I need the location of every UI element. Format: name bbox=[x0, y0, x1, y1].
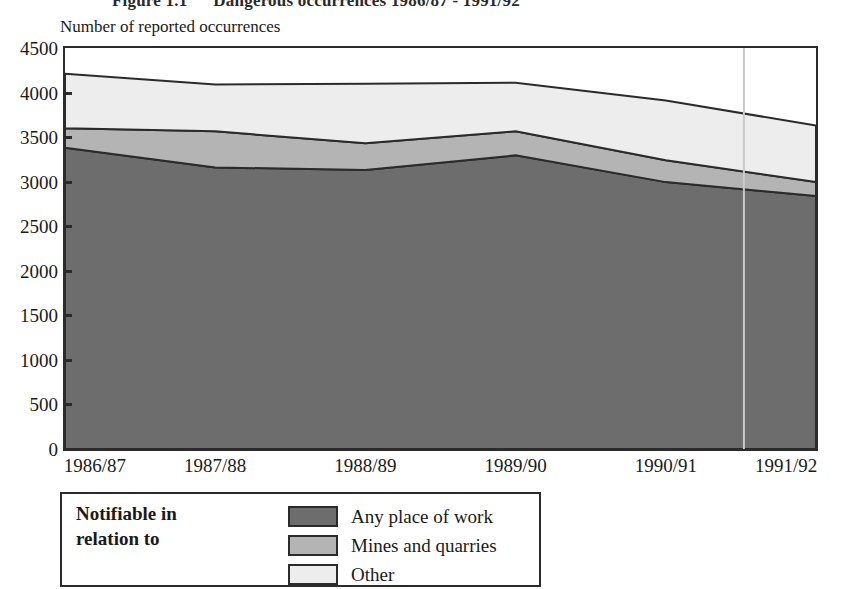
figure-number: Figure 1.1 bbox=[112, 0, 187, 10]
y-axis-caption: Number of reported occurrences bbox=[60, 17, 280, 37]
y-tick-mark bbox=[65, 314, 72, 317]
y-tick-mark bbox=[65, 225, 72, 228]
legend-title-line-2: relation to bbox=[76, 526, 276, 551]
y-tick-label: 2000 bbox=[2, 261, 58, 280]
plot-area bbox=[63, 46, 818, 451]
y-tick-mark bbox=[65, 181, 72, 184]
area-band bbox=[65, 148, 816, 449]
y-tick-mark bbox=[65, 270, 72, 273]
y-tick-mark bbox=[65, 359, 72, 362]
x-axis-tick-labels: 1986/871987/881988/891989/901990/911991/… bbox=[0, 455, 861, 481]
y-tick-label: 1500 bbox=[2, 306, 58, 325]
y-tick-mark bbox=[65, 136, 72, 139]
legend-swatch bbox=[288, 564, 338, 585]
x-tick-label: 1989/90 bbox=[484, 455, 546, 477]
y-tick-mark bbox=[65, 92, 72, 95]
legend-entry: Mines and quarries bbox=[288, 531, 538, 560]
legend-entry: Other bbox=[288, 560, 538, 589]
legend-swatch bbox=[288, 506, 338, 527]
stacked-area-chart bbox=[65, 48, 816, 449]
x-tick-label: 1988/89 bbox=[334, 455, 396, 477]
figure-title: Figure 1.1Dangerous occurrences 1986/87 … bbox=[112, 0, 520, 11]
y-tick-label: 500 bbox=[2, 395, 58, 414]
legend-entries: Any place of workMines and quarriesOther bbox=[288, 502, 538, 589]
y-tick-label: 3000 bbox=[2, 172, 58, 191]
legend-title: Notifiable in relation to bbox=[76, 501, 276, 551]
x-tick-label: 1986/87 bbox=[64, 455, 126, 477]
y-tick-label: 3500 bbox=[2, 128, 58, 147]
legend-label: Other bbox=[351, 565, 394, 584]
y-tick-label: 4500 bbox=[2, 39, 58, 58]
x-tick-label: 1987/88 bbox=[184, 455, 246, 477]
y-tick-label: 2500 bbox=[2, 217, 58, 236]
y-tick-label: 1000 bbox=[2, 350, 58, 369]
legend-label: Mines and quarries bbox=[351, 536, 497, 555]
legend-title-line-1: Notifiable in bbox=[76, 501, 276, 526]
legend: Notifiable in relation to Any place of w… bbox=[60, 492, 541, 587]
figure-caption: Dangerous occurrences 1986/87 - 1991/92 bbox=[213, 0, 520, 10]
y-axis-tick-labels: 050010001500200025003000350040004500 bbox=[0, 0, 58, 573]
x-tick-label: 1991/92 bbox=[755, 455, 817, 477]
y-tick-label: 4000 bbox=[2, 83, 58, 102]
legend-swatch bbox=[288, 535, 338, 556]
y-tick-mark bbox=[65, 403, 72, 406]
x-tick-label: 1990/91 bbox=[635, 455, 697, 477]
legend-entry: Any place of work bbox=[288, 502, 538, 531]
legend-label: Any place of work bbox=[351, 507, 493, 526]
